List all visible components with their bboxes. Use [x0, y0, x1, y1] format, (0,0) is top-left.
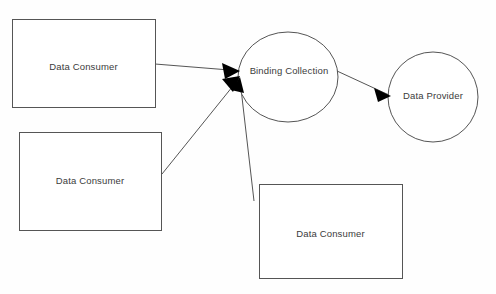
node-circle-data-provider[interactable] — [388, 52, 478, 142]
node-rectangle-consumer-middle[interactable] — [20, 133, 162, 231]
diagram-canvas: Data Consumer Data Consumer Data Consume… — [0, 0, 496, 294]
node-rectangle-consumer-bottom[interactable] — [260, 185, 403, 279]
node-circle-binding-collection[interactable] — [238, 32, 338, 122]
diagram-graphics — [0, 0, 496, 294]
edge-line-consumer-middle-to-binding — [162, 76, 241, 174]
node-rectangle-consumer-top[interactable] — [13, 20, 156, 108]
